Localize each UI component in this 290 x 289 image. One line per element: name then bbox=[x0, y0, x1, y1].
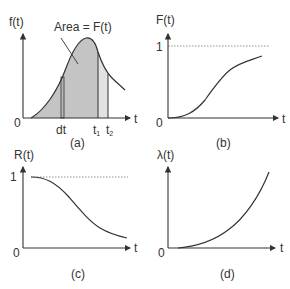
origin-label: 0 bbox=[156, 116, 163, 130]
t2-label: t2 bbox=[106, 123, 113, 137]
panel-caption: (a) bbox=[70, 136, 85, 150]
y-axis-label: λ(t) bbox=[157, 148, 174, 162]
reliability-functions-figure: f(t) Area = F(t) 0 t dt t1 t2 (a) F(t) 1… bbox=[0, 0, 290, 289]
y-axis-label: f(t) bbox=[9, 15, 24, 29]
panel-caption: (c) bbox=[71, 267, 85, 281]
dt-strip bbox=[61, 77, 64, 118]
panel-d-hazard: λ(t) 0 t (d) bbox=[157, 148, 284, 281]
reliability-curve bbox=[31, 177, 127, 238]
panel-c-reliability: R(t) 1 0 t (c) bbox=[10, 148, 138, 281]
origin-label: 0 bbox=[14, 116, 21, 130]
hazard-curve bbox=[178, 172, 269, 248]
asymptote-label: 1 bbox=[10, 170, 17, 184]
x-axis-label: t bbox=[134, 241, 138, 255]
x-axis-label: t bbox=[282, 112, 286, 126]
x-axis-label: t bbox=[134, 112, 138, 126]
strip-t1-t2 bbox=[98, 52, 108, 118]
origin-label: 0 bbox=[158, 246, 165, 260]
y-axis-label: R(t) bbox=[14, 148, 34, 162]
panel-b-cdf: F(t) 1 0 t (b) bbox=[156, 13, 286, 150]
panel-caption: (b) bbox=[216, 136, 231, 150]
x-axis-label: t bbox=[280, 241, 284, 255]
dt-label: dt bbox=[56, 123, 67, 137]
area-under-curve bbox=[31, 38, 98, 118]
origin-label: 0 bbox=[13, 246, 20, 260]
y-axis-label: F(t) bbox=[156, 13, 175, 27]
cdf-curve bbox=[168, 56, 262, 118]
panel-caption: (d) bbox=[220, 267, 235, 281]
area-annotation: Area = F(t) bbox=[54, 20, 112, 34]
panel-a-pdf: f(t) Area = F(t) 0 t dt t1 t2 (a) bbox=[9, 15, 138, 150]
t1-label: t1 bbox=[93, 123, 100, 137]
asymptote-label: 1 bbox=[156, 40, 163, 54]
